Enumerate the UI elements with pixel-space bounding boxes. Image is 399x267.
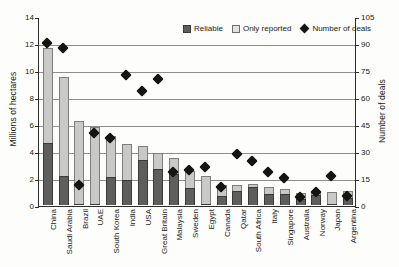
bar-slot[interactable] — [166, 18, 182, 205]
bar-segment-reliable[interactable] — [122, 180, 132, 205]
x-axis-category-label: Brazil — [82, 209, 90, 229]
chart-container: Millions of hectares Number of deals 024… — [0, 0, 399, 267]
bar-segment-reliable[interactable] — [90, 204, 100, 205]
bar-segment-reliable[interactable] — [106, 177, 116, 205]
number-of-deals-diamond-icon — [300, 24, 310, 34]
bar-segment-only-reported[interactable] — [153, 153, 163, 169]
stacked-bar[interactable] — [153, 153, 163, 205]
only-reported-swatch-icon — [232, 25, 240, 33]
bar-segment-only-reported[interactable] — [90, 127, 100, 204]
plot-area: 02468101214 0153045607590105 — [38, 18, 356, 207]
bar-segment-only-reported[interactable] — [327, 192, 337, 203]
stacked-bar[interactable] — [106, 136, 116, 205]
bar-slot[interactable] — [151, 18, 167, 205]
stacked-bar[interactable] — [138, 146, 148, 205]
stacked-bar[interactable] — [264, 187, 274, 205]
bar-segment-reliable[interactable] — [74, 204, 84, 205]
bar-slot[interactable] — [293, 18, 309, 205]
bar-slot[interactable] — [135, 18, 151, 205]
bar-segment-only-reported[interactable] — [264, 187, 274, 194]
legend-item-number-of-deals: Number of deals — [300, 24, 371, 33]
y-axis-left-tick-label: 8 — [8, 95, 34, 103]
bar-segment-reliable[interactable] — [43, 143, 53, 205]
bar-segment-reliable[interactable] — [248, 187, 258, 205]
y-axis-right-tick-label: 45 — [361, 122, 387, 130]
stacked-bar[interactable] — [201, 176, 211, 205]
x-axis-category-label: UAE — [97, 209, 105, 225]
bar-slot[interactable] — [340, 18, 356, 205]
x-axis-category-label: Australia — [303, 209, 311, 240]
y-axis-left-tick-label: 2 — [8, 176, 34, 184]
stacked-bar[interactable] — [59, 77, 69, 205]
bar-slot[interactable] — [214, 18, 230, 205]
bar-segment-reliable[interactable] — [185, 188, 195, 205]
bar-segment-only-reported[interactable] — [138, 146, 148, 160]
y-axis-left-tick-label: 6 — [8, 122, 34, 130]
x-axis-category-label: South Korea — [113, 209, 121, 253]
y-axis-left-tick-mark — [35, 126, 39, 127]
y-axis-left-tick-label: 10 — [8, 68, 34, 76]
stacked-bar[interactable] — [280, 189, 290, 205]
x-axis-category-label: Malaysia — [176, 209, 184, 241]
bar-slot[interactable] — [119, 18, 135, 205]
x-axis-category-label: South Africa — [255, 209, 263, 252]
bar-segment-only-reported[interactable] — [122, 144, 132, 180]
bar-slot[interactable] — [261, 18, 277, 205]
bar-segment-only-reported[interactable] — [59, 77, 69, 176]
legend-item-only-reported: Only reported — [232, 24, 291, 33]
y-axis-left-tick-mark — [35, 153, 39, 154]
bar-segment-reliable[interactable] — [169, 174, 179, 205]
reliable-swatch-icon — [183, 25, 191, 33]
y-axis-left-tick-mark — [35, 99, 39, 100]
bar-slot[interactable] — [182, 18, 198, 205]
bar-slot[interactable] — [245, 18, 261, 205]
y-axis-left-tick-mark — [35, 18, 39, 19]
bar-series-group — [40, 18, 354, 205]
stacked-bar[interactable] — [122, 144, 132, 205]
x-axis-category-label: Argentina — [350, 209, 358, 243]
bar-slot[interactable] — [72, 18, 88, 205]
stacked-bar[interactable] — [169, 158, 179, 205]
y-axis-right-tick-label: 0 — [361, 203, 387, 211]
stacked-bar[interactable] — [327, 192, 337, 205]
bar-segment-reliable[interactable] — [153, 169, 163, 205]
y-axis-right-tick-mark — [355, 207, 359, 208]
y-axis-left-tick-label: 4 — [8, 149, 34, 157]
bar-segment-reliable[interactable] — [138, 160, 148, 205]
bar-slot[interactable] — [87, 18, 103, 205]
bar-segment-reliable[interactable] — [217, 196, 227, 205]
x-axis-category-label: Qatar — [240, 209, 248, 229]
y-axis-left-tick-mark — [35, 207, 39, 208]
legend-item-reliable: Reliable — [183, 24, 223, 33]
y-axis-left-tick-label: 12 — [8, 41, 34, 49]
x-axis-category-label: USA — [145, 209, 153, 225]
y-axis-right-tick-label: 15 — [361, 176, 387, 184]
stacked-bar[interactable] — [248, 184, 258, 205]
y-axis-right-tick-label: 105 — [361, 14, 387, 22]
x-axis-category-label: India — [129, 209, 137, 226]
bar-segment-only-reported[interactable] — [74, 121, 84, 203]
bar-slot[interactable] — [230, 18, 246, 205]
bar-segment-only-reported[interactable] — [201, 176, 211, 204]
x-axis-category-label: Great Britain — [161, 209, 169, 254]
legend-label-number-of-deals: Number of deals — [312, 24, 371, 33]
stacked-bar[interactable] — [90, 127, 100, 205]
bar-slot[interactable] — [309, 18, 325, 205]
stacked-bar[interactable] — [232, 185, 242, 205]
bar-slot[interactable] — [198, 18, 214, 205]
bar-segment-only-reported[interactable] — [43, 48, 53, 143]
y-axis-right-tick-label: 90 — [361, 41, 387, 49]
bar-segment-reliable[interactable] — [264, 194, 274, 205]
stacked-bar[interactable] — [185, 171, 195, 205]
x-axis-category-label: Norway — [319, 209, 327, 236]
y-axis-right-tick-label: 30 — [361, 149, 387, 157]
stacked-bar[interactable] — [43, 48, 53, 205]
bar-segment-reliable[interactable] — [201, 204, 211, 205]
bar-segment-reliable[interactable] — [59, 176, 69, 205]
bar-segment-reliable[interactable] — [232, 191, 242, 205]
x-axis-category-label: Canada — [224, 209, 232, 237]
bar-slot[interactable] — [103, 18, 119, 205]
stacked-bar[interactable] — [74, 121, 84, 205]
bar-segment-reliable[interactable] — [280, 194, 290, 205]
bar-segment-reliable[interactable] — [327, 204, 337, 205]
